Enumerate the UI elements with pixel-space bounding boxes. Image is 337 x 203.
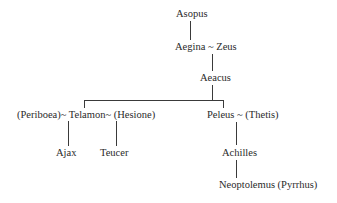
edge-to-teucer [116, 121, 117, 146]
edge-to-achilles [236, 122, 237, 145]
sibling-bar [84, 100, 224, 101]
edge-asopus-aegina [190, 21, 191, 40]
node-peleus-line: Peleus ~ (Thetis) [207, 109, 279, 121]
node-ajax: Ajax [56, 147, 76, 159]
edge-to-ajax [68, 121, 69, 146]
edge-aeacus-branch [212, 85, 213, 100]
edge-to-neoptolemus [236, 160, 237, 178]
edge-zeus-aeacus [212, 54, 213, 71]
edge-to-peleus [223, 100, 224, 108]
node-teucer: Teucer [100, 147, 128, 159]
node-telamon-line: (Periboea)~ Telamon~ (Hesione) [17, 109, 155, 121]
node-asopus: Asopus [176, 8, 208, 20]
node-aeacus: Aeacus [200, 72, 231, 84]
edge-to-telamon [84, 100, 85, 108]
node-achilles: Achilles [222, 147, 257, 159]
node-aegina-zeus: Aegina ~ Zeus [175, 41, 237, 53]
node-neoptolemus: Neoptolemus (Pyrrhus) [219, 179, 317, 191]
